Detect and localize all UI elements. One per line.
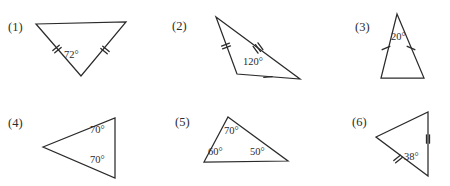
figure-number-label: (4): [8, 116, 23, 130]
angle-label: 20°: [391, 31, 406, 42]
figure-number-label: (5): [175, 115, 190, 129]
figure-number-label: (6): [352, 115, 367, 129]
triangle-outline-3: [381, 14, 424, 78]
figure-6: 38°(6): [352, 112, 430, 176]
angle-label: 120°: [243, 56, 263, 67]
figure-5: 70°60°50°(5): [175, 115, 288, 162]
tick-upper-left-double: [222, 43, 231, 49]
angle-label: 38°: [404, 151, 419, 162]
triangle-outline-1: [36, 22, 126, 76]
tick-mark: [264, 77, 272, 78]
angle-label: 70°: [90, 154, 105, 165]
figure-4: 70°70°(4): [8, 116, 115, 178]
figure-number-label: (1): [8, 20, 23, 34]
angle-label: 50°: [250, 146, 265, 157]
figure-number-label: (3): [355, 20, 370, 34]
tick-hypotenuse-triple: [253, 43, 263, 53]
angle-label: 70°: [224, 125, 239, 136]
figure-3: 20°(3): [355, 14, 424, 78]
figure-2: 120°(2): [172, 17, 300, 79]
angle-label: 72°: [64, 49, 79, 60]
tick-right-double: [101, 46, 109, 54]
angle-label: 70°: [90, 124, 105, 135]
figure-number-label: (2): [172, 19, 187, 33]
worksheet-figure-sheet: 72°(1)120°(2)20°(3)70°70°(4)70°60°50°(5)…: [0, 0, 450, 186]
tick-base-single: [264, 77, 272, 78]
triangle-outline-6: [376, 112, 428, 176]
figure-1: 72°(1): [8, 20, 126, 76]
angle-label: 60°: [208, 146, 223, 157]
triangle-figures-svg: 72°(1)120°(2)20°(3)70°70°(4)70°60°50°(5)…: [0, 0, 450, 186]
